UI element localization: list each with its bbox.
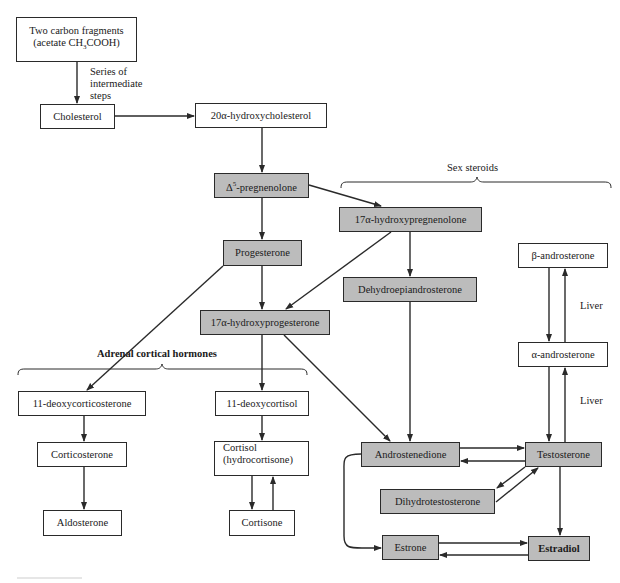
node-pregnenolone-label: Δ5-pregnenolone [226, 178, 297, 194]
node-deoxycorticosterone-label: 11-deoxycorticosterone [33, 398, 132, 410]
node-progesterone: Progesterone [223, 240, 302, 266]
node-aldosterone: Aldosterone [43, 510, 122, 536]
node-androstenedione-label: Androstenedione [375, 449, 447, 461]
node-hydroxyprogesterone-label: 17α-hydroxyprogesterone [211, 317, 320, 329]
sex-steroids-label: Sex steroids [447, 162, 498, 174]
node-cholesterol: Cholesterol [40, 104, 115, 129]
node-11-deoxycortisol: 11-deoxycortisol [215, 391, 309, 416]
node-cortisone: Cortisone [229, 510, 295, 536]
node-corticosterone: Corticosterone [37, 442, 127, 467]
node-dht-label: Dihydrotestosterone [395, 496, 480, 508]
node-acetate-line1: Two carbon fragments [29, 25, 123, 37]
adrenal-brace [18, 364, 307, 375]
node-dehydroepiandrosterone: Dehydroepiandrosterone [343, 277, 477, 302]
print-artifact-line [17, 577, 82, 579]
node-aldosterone-label: Aldosterone [57, 517, 108, 529]
liver-label-lower: Liver [580, 395, 603, 407]
arrow-androstenedione-to-estrone [344, 454, 381, 548]
node-alpha-androsterone-label: α-androsterone [531, 349, 594, 361]
node-progesterone-label: Progesterone [235, 247, 290, 259]
node-acetate: Two carbon fragments (acetate CH3COOH) [16, 17, 137, 62]
node-17a-hydroxypregnenolone: 17α-hydroxypregnenolone [339, 207, 482, 232]
arrow-testosterone-to-dht [497, 467, 525, 488]
node-hydroxypregnenolone-label: 17α-hydroxypregnenolone [355, 214, 467, 226]
node-hydroxycholesterol-label: 20α-hydroxycholesterol [211, 110, 312, 122]
node-11-deoxycorticosterone: 11-deoxycorticosterone [18, 391, 146, 416]
node-cortisol-line2: (hydrocortisone) [223, 454, 293, 466]
node-d5-pregnenolone: Δ5-pregnenolone [214, 173, 309, 198]
pregnenolone-suffix: -pregnenolone [236, 181, 297, 192]
node-deoxycortisol-label: 11-deoxycortisol [227, 398, 298, 410]
node-beta-androsterone-label: β-androsterone [531, 250, 594, 262]
node-testosterone-label: Testosterone [537, 449, 590, 461]
acetate-formula-suffix: COOH) [87, 37, 120, 48]
sex-steroids-brace [341, 177, 611, 188]
node-testosterone: Testosterone [525, 442, 602, 467]
node-20a-hydroxycholesterol: 20α-hydroxycholesterol [195, 103, 327, 128]
node-estrone-label: Estrone [394, 542, 426, 554]
node-corticosterone-label: Corticosterone [51, 449, 113, 461]
intermediate-steps-line3: steps [90, 90, 142, 102]
node-estrone: Estrone [382, 535, 439, 560]
acetate-formula-prefix: (acetate CH [33, 37, 83, 48]
node-beta-androsterone: β-androsterone [518, 243, 608, 268]
node-androstenedione: Androstenedione [361, 442, 460, 467]
node-cholesterol-label: Cholesterol [53, 111, 101, 123]
node-cortisol-line1: Cortisol [223, 442, 257, 454]
delta-symbol: Δ [226, 181, 233, 192]
node-cortisol: Cortisol (hydrocortisone) [214, 441, 309, 476]
arrow-dht-to-testosterone [496, 468, 538, 502]
node-acetate-line2: (acetate CH3COOH) [33, 37, 120, 53]
intermediate-steps-line2: intermediate [90, 78, 142, 90]
intermediate-steps-label: Series of intermediate steps [90, 66, 142, 102]
node-dhea-label: Dehydroepiandrosterone [358, 284, 462, 296]
node-estradiol: Estradiol [528, 536, 590, 561]
arrow-pregnenolone-to-hydroxypregnenolone [309, 185, 381, 206]
node-cortisone-label: Cortisone [242, 517, 283, 529]
node-dihydrotestosterone: Dihydrotestosterone [380, 489, 495, 514]
node-estradiol-label: Estradiol [538, 543, 579, 555]
arrow-hydroxyprogesterone-to-androstenedione [284, 335, 390, 441]
node-17a-hydroxyprogesterone: 17α-hydroxyprogesterone [200, 310, 330, 335]
liver-label-upper: Liver [580, 300, 603, 312]
intermediate-steps-line1: Series of [90, 66, 142, 78]
adrenal-cortical-label: Adrenal cortical hormones [97, 348, 217, 360]
node-alpha-androsterone: α-androsterone [518, 342, 608, 367]
